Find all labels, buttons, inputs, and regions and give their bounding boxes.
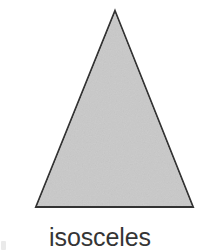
figure-container: isosceles xyxy=(0,0,200,251)
triangle-diagram xyxy=(0,0,200,251)
shape-label: isosceles xyxy=(0,224,200,251)
triangle-texture-overlay xyxy=(37,13,192,206)
